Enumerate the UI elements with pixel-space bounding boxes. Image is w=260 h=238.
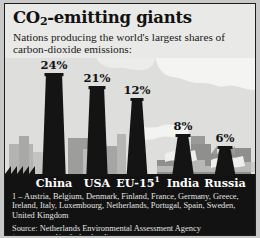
country-label-eu15-superscript: 1 [155,175,160,184]
country-label-usa: USA [84,176,111,191]
chart-area: 24% 21% 12% 8% 6% [5,56,255,184]
footer-panel: 1 – Austria, Belgium, Denmark, Finland, … [5,190,255,235]
country-label-china-text: China [36,176,73,190]
country-label-eu15-text: EU-15 [116,176,154,190]
country-label-eu15: EU-151 [116,176,160,191]
country-label-china: China [36,176,73,191]
page-title: CO2-emitting giants [13,8,247,29]
country-label-russia-text: Russia [204,176,246,190]
source-attribution: Source: Netherlands Environmental Assess… [12,224,248,236]
country-label-usa-text: USA [84,176,111,190]
country-label-india: India [167,176,200,191]
title-subscript-2: 2 [40,15,47,28]
title-co-text: CO [13,8,40,27]
title-rest-text: -emitting giants [47,8,191,27]
header: CO2-emitting giants Nations producing th… [5,4,255,58]
bar-china [42,73,66,184]
infographic-root: CO2-emitting giants Nations producing th… [0,0,260,238]
country-label-russia: Russia [204,176,246,191]
country-label-india-text: India [167,176,200,190]
footnote-eu15-members: 1 – Austria, Belgium, Denmark, Finland, … [12,192,248,220]
page-subtitle: Nations producing the world's largest sh… [13,31,247,56]
infographic-frame: CO2-emitting giants Nations producing th… [4,3,256,236]
chart-illustration [5,56,255,184]
